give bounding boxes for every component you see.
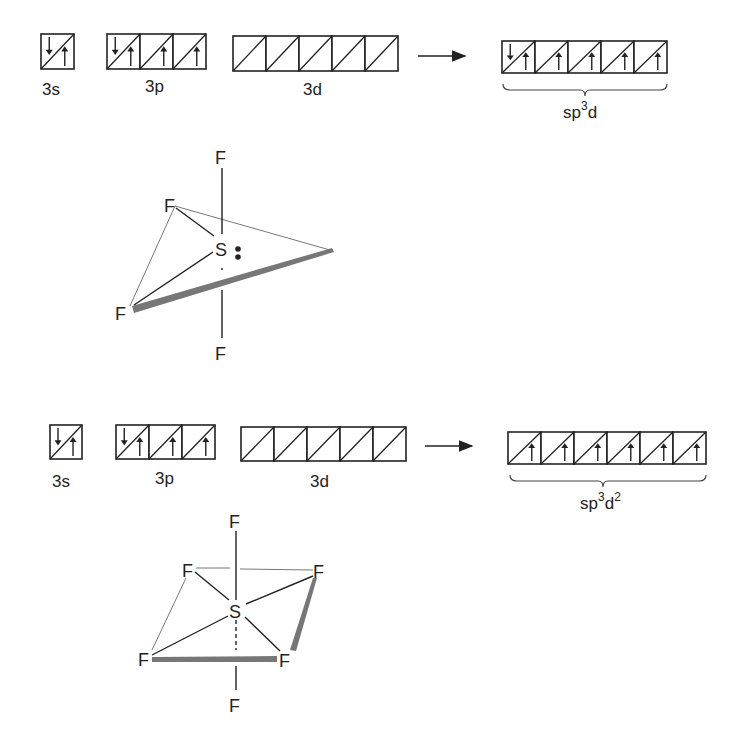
orbital-box — [535, 41, 568, 73]
sf6-3p-orbital-boxes — [116, 425, 215, 459]
lone-pair-dot — [235, 254, 241, 260]
sf6-3s-orbital-boxes — [50, 425, 82, 459]
orbital-box — [173, 34, 206, 69]
orbital-box — [365, 36, 398, 71]
sf6-hybrid-label: sp3d2 — [580, 490, 621, 513]
orbital-box — [541, 432, 574, 464]
atom-f-equatorial-back-right: F — [313, 562, 324, 582]
hybridization-diagram: 3s 3p 3d sp3d F F F F S 3s 3p 3d — [0, 0, 741, 744]
orbital-box — [41, 34, 74, 69]
orbital-box — [574, 432, 607, 464]
orbital-box — [299, 36, 332, 71]
atom-f-equatorial-back-left: F — [182, 561, 193, 581]
orbital-box — [149, 425, 182, 459]
atom-s-central: S — [215, 240, 227, 260]
orbital-box — [241, 427, 274, 461]
orbital-box — [673, 432, 706, 464]
lone-pair-dot — [235, 246, 241, 252]
atom-f-axial-top: F — [229, 512, 240, 532]
orbital-box — [307, 427, 340, 461]
sf6-3d-orbital-boxes — [241, 427, 406, 461]
wedge-bond — [290, 578, 317, 651]
orbital-box — [116, 425, 149, 459]
atom-f-axial-bottom: F — [215, 344, 226, 364]
sf4-3p-label: 3p — [145, 77, 164, 96]
sf6-3d-label: 3d — [310, 472, 329, 491]
orbital-box — [266, 36, 299, 71]
brace-icon — [510, 475, 706, 487]
orbital-box — [640, 432, 673, 464]
sf4-hybrid-orbital-boxes — [502, 41, 667, 73]
atom-f-axial-bottom: F — [229, 696, 240, 716]
atom-f-equatorial-back: F — [164, 196, 175, 216]
orbital-box — [50, 425, 82, 459]
atom-f-axial-top: F — [215, 148, 226, 168]
orbital-box — [332, 36, 365, 71]
sf6-3s-label: 3s — [52, 472, 70, 491]
sf4-3d-orbital-boxes — [233, 36, 398, 71]
orbital-box — [233, 36, 266, 71]
atom-f-equatorial-front-left: F — [138, 650, 149, 670]
orbital-box — [107, 34, 140, 69]
orbital-box — [508, 432, 541, 464]
sf4-3d-label: 3d — [303, 80, 322, 99]
sf4-molecule: F F F F S — [115, 148, 334, 364]
sf6-molecule: F F F F F F S — [138, 512, 324, 716]
atom-f-equatorial-front-right: F — [279, 651, 290, 671]
brace-icon — [503, 84, 667, 96]
wedge-bond — [132, 248, 334, 313]
orbital-box — [373, 427, 406, 461]
sf4-3p-orbital-boxes — [107, 34, 206, 69]
sf6-orbital-row: 3s 3p 3d sp3d2 — [50, 425, 706, 513]
wedge-bond — [152, 656, 277, 662]
orbital-box — [568, 41, 601, 73]
orbital-box — [140, 34, 173, 69]
orbital-box — [502, 41, 535, 73]
sf4-hybrid-label: sp3d — [563, 99, 597, 122]
orbital-box — [274, 427, 307, 461]
sf6-hybrid-orbital-boxes — [508, 432, 706, 464]
atom-f-equatorial-front: F — [115, 304, 126, 324]
sf4-3s-orbital-boxes — [41, 34, 74, 69]
orbital-box — [634, 41, 667, 73]
sf6-3p-label: 3p — [155, 469, 174, 488]
orbital-box — [340, 427, 373, 461]
sf4-3s-label: 3s — [42, 80, 60, 99]
sf4-orbital-row: 3s 3p 3d sp3d — [41, 34, 667, 122]
orbital-box — [182, 425, 215, 459]
orbital-box — [607, 432, 640, 464]
orbital-box — [601, 41, 634, 73]
atom-s-central: S — [229, 602, 241, 622]
